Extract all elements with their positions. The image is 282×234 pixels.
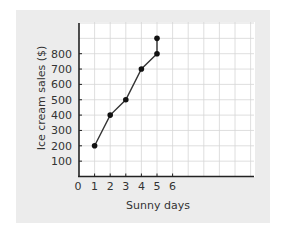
data-point-marker [154,36,160,42]
y-tick-label: 200 [51,140,72,153]
data-point-marker [107,112,113,118]
y-tick-label: 700 [51,63,72,76]
data-point-marker [154,51,160,57]
x-axis-title: Sunny days [126,199,190,212]
y-tick-label: 600 [51,78,72,91]
data-point-marker [92,143,98,149]
chart-figure: 0123456 100200300400500600700800 Sunny d… [0,0,282,234]
x-tick-label: 4 [138,180,145,193]
x-tick-label: 1 [91,180,98,193]
y-tick-label: 100 [51,155,72,168]
line-chart: 0123456 100200300400500600700800 Sunny d… [0,0,282,234]
x-tick-label: 5 [154,180,161,193]
x-tick-label: 3 [122,180,129,193]
y-tick-label: 800 [51,48,72,61]
x-tick-label: 2 [107,180,114,193]
y-axis-title: Ice cream sales ($) [35,46,48,151]
x-tick-label: 0 [75,180,82,193]
data-point-marker [123,97,129,103]
data-point-marker [139,66,145,72]
y-tick-label: 500 [51,94,72,107]
x-tick-label: 6 [169,180,176,193]
y-tick-label: 400 [51,109,72,122]
y-tick-label: 300 [51,124,72,137]
